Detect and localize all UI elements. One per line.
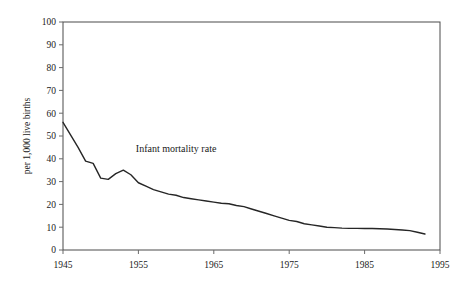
y-tick-label: 50 <box>47 131 57 141</box>
y-tick-label: 60 <box>47 109 57 119</box>
x-tick-label: 1965 <box>204 260 223 270</box>
plot-frame <box>63 22 440 250</box>
y-tick-label: 30 <box>47 177 57 187</box>
series-annotation-label: Infant mortality rate <box>136 143 217 154</box>
x-tick-label: 1955 <box>129 260 148 270</box>
chart-canvas: 0102030405060708090100194519551965197519… <box>0 0 463 292</box>
y-tick-label: 10 <box>47 223 57 233</box>
y-tick-label: 70 <box>47 86 57 96</box>
y-tick-label: 40 <box>47 154 57 164</box>
infant-mortality-chart: 0102030405060708090100194519551965197519… <box>0 0 463 292</box>
x-tick-label: 1985 <box>355 260 374 270</box>
data-line-infant-mortality-rate <box>63 122 425 234</box>
y-axis-title: per 1,000 live births <box>22 97 32 174</box>
x-tick-label: 1995 <box>431 260 450 270</box>
x-tick-label: 1945 <box>54 260 73 270</box>
x-tick-label: 1975 <box>280 260 299 270</box>
y-tick-label: 90 <box>47 40 57 50</box>
y-tick-label: 80 <box>47 63 57 73</box>
y-tick-label: 20 <box>47 200 57 210</box>
y-tick-label: 0 <box>51 245 56 255</box>
y-tick-label: 100 <box>42 17 57 27</box>
